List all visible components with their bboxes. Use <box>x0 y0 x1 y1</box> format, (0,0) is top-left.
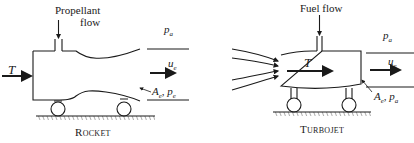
propellant-pipe <box>55 39 62 51</box>
rocket-exit-area-pressure-label: Ae, pe <box>152 86 176 100</box>
turbojet-body <box>281 51 361 88</box>
turbojet-caption: Turbojet <box>300 124 344 135</box>
fuel-pipe <box>317 36 322 51</box>
diagram-canvas <box>0 0 414 143</box>
rocket-diagram <box>2 20 189 120</box>
rocket-front-wheel <box>51 102 65 116</box>
turbojet-rear-wheel <box>342 98 356 112</box>
turbojet-front-wheel <box>287 98 301 112</box>
rocket-exit-velocity-label: ue <box>168 58 177 72</box>
turbojet-ambient-pressure-label: pa <box>383 30 392 44</box>
rocket-thrust-label: T <box>8 63 15 76</box>
fuel-flow-label: Fuel flow <box>300 3 342 14</box>
turbojet-exit-velocity-label: ue <box>388 56 397 70</box>
turbojet-thrust-label: T <box>304 56 311 69</box>
propellant-flow-label-line2: flow <box>80 17 100 28</box>
turbojet-exit-area-pressure-label: Ae, pa <box>374 91 398 105</box>
rocket-caption: Rocket <box>75 127 111 138</box>
propellant-flow-label-line1: Propellant <box>55 5 100 16</box>
rocket-body <box>33 49 140 101</box>
rocket-rear-wheel <box>117 102 131 116</box>
rocket-ambient-pressure-label: pa <box>164 24 173 38</box>
